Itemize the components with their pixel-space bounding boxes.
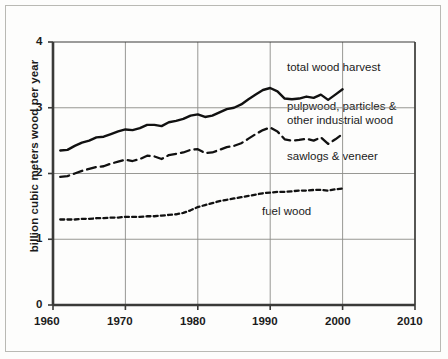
series-path-fuel-wood	[60, 189, 342, 220]
series-path-total-wood-harvest	[60, 88, 342, 150]
plot-area	[0, 0, 448, 359]
chart-figure: billion cubic meters wood per year 4 3 2…	[0, 0, 448, 359]
axis-ticks	[48, 42, 415, 310]
gridlines	[53, 42, 415, 305]
series-path-sawlogs-veneer	[60, 127, 342, 176]
